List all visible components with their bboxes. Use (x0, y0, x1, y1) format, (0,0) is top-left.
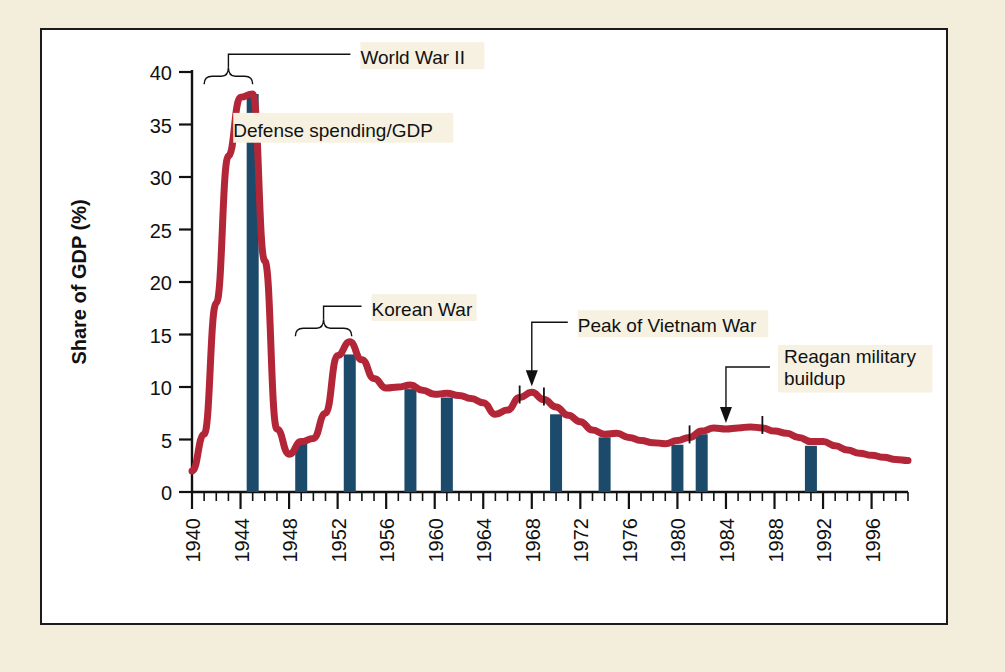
x-tick-label: 1960 (425, 518, 447, 563)
defense-spending-chart: 0510152025303540194019441948195219561960… (42, 30, 946, 623)
x-tick-label: 1988 (765, 518, 787, 563)
y-tick-label: 15 (150, 325, 172, 347)
annotation-peak-of-vietnam-war: Peak of Vietnam War (578, 315, 757, 336)
x-tick-label: 1976 (619, 518, 641, 563)
annotation-reagan-military-buildup-line1: Reagan military (784, 346, 916, 367)
reagan-leader (726, 367, 770, 420)
vietnam-arrow-icon (526, 370, 538, 386)
x-tick-label: 1944 (231, 518, 253, 563)
korea-bracket (295, 319, 351, 336)
y-tick-label: 35 (150, 115, 172, 137)
chart-panel: 0510152025303540194019441948195219561960… (40, 28, 948, 625)
annotation-world-war-2: World War II (360, 47, 465, 68)
x-tick-label: 1980 (667, 518, 689, 563)
reagan-arrow-icon (720, 407, 732, 423)
x-tick-label: 1952 (328, 518, 350, 563)
annotation-defense-spending: Defense spending/GDP (233, 120, 433, 141)
y-axis-title: Share of GDP (%) (68, 199, 90, 364)
ww2-bracket (204, 67, 253, 84)
x-tick-label: 1984 (716, 518, 738, 563)
y-tick-label: 40 (150, 62, 172, 84)
y-tick-label: 20 (150, 272, 172, 294)
x-axis-title: Year (519, 622, 561, 623)
annotation-reagan-military-buildup-line2: buildup (784, 368, 845, 389)
ww2-leader (228, 54, 350, 67)
y-tick-label: 10 (150, 377, 172, 399)
x-tick-label: 1964 (473, 518, 495, 563)
x-tick-label: 1996 (862, 518, 884, 563)
y-tick-label: 30 (150, 167, 172, 189)
x-tick-label: 1948 (279, 518, 301, 563)
x-tick-label: 1972 (570, 518, 592, 563)
x-tick-label: 1956 (376, 518, 398, 563)
y-tick-label: 0 (161, 482, 172, 504)
x-tick-label: 1992 (813, 518, 835, 563)
annotation-korean-war: Korean War (372, 299, 473, 320)
y-tick-label: 5 (161, 430, 172, 452)
vietnam-leader (532, 322, 568, 383)
y-tick-label: 25 (150, 220, 172, 242)
x-tick-label: 1968 (522, 518, 544, 563)
x-tick-label: 1940 (182, 518, 204, 563)
korea-leader (324, 306, 362, 319)
defense-spending-line (192, 94, 908, 471)
